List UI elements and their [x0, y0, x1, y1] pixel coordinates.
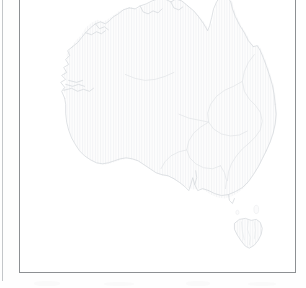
australia-outline-map	[20, 0, 295, 272]
scan-smudge	[186, 281, 210, 286]
scanned-page	[0, 0, 306, 288]
scan-smudge	[34, 281, 60, 286]
tasmania	[234, 218, 262, 248]
scan-smudge	[104, 282, 134, 286]
bass-strait-islands	[236, 205, 259, 214]
scan-smudge	[248, 282, 276, 286]
mainland-landmass	[64, 0, 277, 199]
page-gutter-rule	[2, 0, 3, 281]
map-plate-frame	[19, 0, 296, 273]
